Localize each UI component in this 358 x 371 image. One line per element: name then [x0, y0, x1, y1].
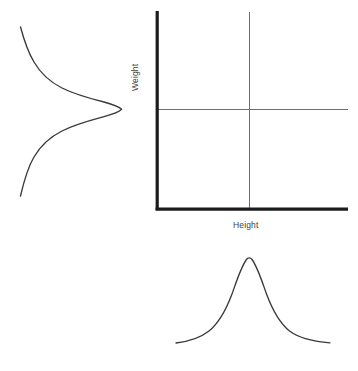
height-distribution-curve [176, 258, 330, 343]
weight-distribution-curve [21, 27, 122, 196]
x-axis-label: Height [233, 221, 258, 230]
y-axis-label: Weight [131, 64, 140, 91]
figure-root: Weight Height [0, 0, 358, 371]
figure-canvas [0, 0, 358, 371]
